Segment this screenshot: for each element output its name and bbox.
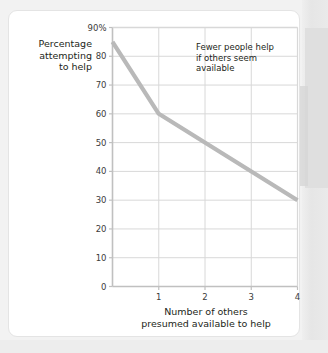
y-tick-label-50: 50 <box>96 138 107 148</box>
x-tick-label-1: 1 <box>156 292 161 302</box>
x-axis-title-line-1: Number of others <box>112 306 300 318</box>
y-tick-label-80: 80 <box>96 51 107 61</box>
x-tick-label-2: 2 <box>202 292 207 302</box>
y-tick-label-10: 10 <box>96 253 107 263</box>
annotation-line-2: if others seem <box>196 53 257 63</box>
x-axis-title-line-2: presumed available to help <box>112 318 300 330</box>
y-tick-label-60: 60 <box>96 109 107 119</box>
line-chart-plot: 0102030405060708090% 1234 Fewer people h… <box>0 0 328 353</box>
x-axis-title: Number of others presumed available to h… <box>112 306 300 329</box>
annotation-line-3: available <box>196 63 234 73</box>
y-tick-label-40: 40 <box>96 166 107 176</box>
y-tick-label-90: 90% <box>88 23 107 33</box>
y-tick-label-30: 30 <box>96 195 107 205</box>
y-axis-tick-labels: 0102030405060708090% <box>88 23 107 292</box>
x-tick-label-4: 4 <box>295 292 300 302</box>
y-tick-label-0: 0 <box>101 282 106 292</box>
chart-annotation: Fewer people helpif others seemavailable <box>196 42 274 73</box>
y-tick-label-20: 20 <box>96 224 107 234</box>
x-axis-tick-labels: 1234 <box>156 292 300 302</box>
y-tick-label-70: 70 <box>96 80 107 90</box>
annotation-line-1: Fewer people help <box>196 42 274 52</box>
x-tick-label-3: 3 <box>249 292 254 302</box>
